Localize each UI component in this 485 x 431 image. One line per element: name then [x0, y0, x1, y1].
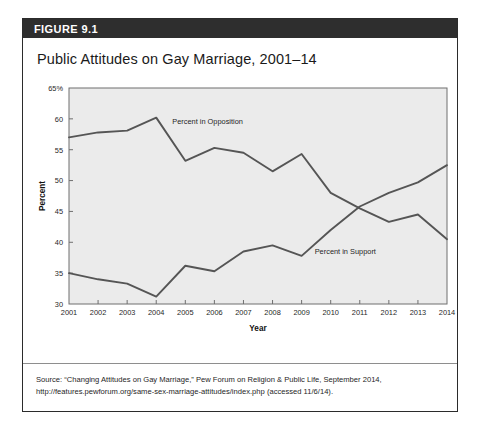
x-axis-tick-label: 2003	[119, 308, 135, 317]
y-axis-tick-label: 40	[55, 238, 63, 247]
y-axis-title: Percent	[38, 181, 47, 211]
x-axis-title: Year	[249, 324, 267, 333]
x-axis-tick-label: 2005	[177, 308, 193, 317]
source-line-1: “Changing Attitudes on Gay Marriage,” Pe…	[62, 375, 382, 384]
x-axis-tick-label: 2002	[90, 308, 106, 317]
plot-background	[69, 88, 447, 304]
y-axis-tick-label: 45	[55, 207, 63, 216]
x-axis-tick-label: 2014	[439, 308, 455, 317]
y-axis-tick-label: 60	[55, 115, 63, 124]
source-note: Source: “Changing Attitudes on Gay Marri…	[36, 374, 445, 397]
figure-number-label: FIGURE 9.1	[34, 23, 98, 35]
x-axis-tick-label: 2008	[264, 308, 280, 317]
y-axis-tick-label: 55	[55, 146, 63, 155]
x-axis-tick-label: 2001	[61, 308, 77, 317]
x-axis-tick-label: 2007	[235, 308, 251, 317]
figure-card: FIGURE 9.1 Public Attitudes on Gay Marri…	[22, 18, 458, 412]
page-title: Public Attitudes on Gay Marriage, 2001–1…	[23, 38, 457, 67]
y-axis-tick-label: 50	[55, 176, 63, 185]
figure-header-bar: FIGURE 9.1	[23, 19, 457, 38]
y-axis-tick-label: 35	[55, 269, 63, 278]
x-axis-tick-label: 2013	[410, 308, 426, 317]
chart-plot-area: 3035404550556065%Percent2001200220032004…	[23, 76, 457, 341]
series-label-support: Percent in Support	[315, 247, 376, 256]
line-chart-svg: 3035404550556065%Percent2001200220032004…	[23, 76, 457, 341]
x-axis-tick-label: 2009	[293, 308, 309, 317]
y-axis-tick-label: 65%	[48, 84, 63, 93]
x-axis-tick-label: 2011	[352, 308, 368, 317]
x-axis-tick-label: 2006	[206, 308, 222, 317]
x-axis-tick-label: 2010	[322, 308, 338, 317]
series-label-opposition: Percent in Opposition	[172, 117, 243, 126]
source-divider	[23, 363, 457, 364]
x-axis-tick-label: 2012	[381, 308, 397, 317]
source-line-2: http://features.pewforum.org/same-sex-ma…	[36, 387, 333, 396]
source-label: Source:	[36, 375, 62, 384]
x-axis-tick-label: 2004	[148, 308, 164, 317]
